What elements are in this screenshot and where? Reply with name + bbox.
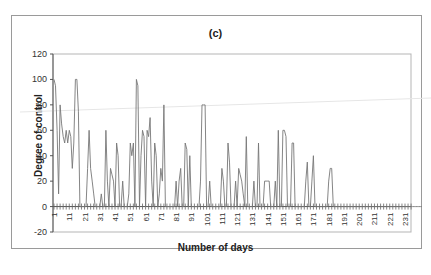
x-tick-label: 211 xyxy=(370,212,379,225)
plot-area: -200204060801001201112131415161718191101… xyxy=(0,0,431,275)
x-tick-label: 71 xyxy=(157,212,166,221)
x-tick-label: 181 xyxy=(325,212,334,226)
x-tick-label: 141 xyxy=(264,212,273,226)
x-tick-label: 111 xyxy=(218,212,227,225)
x-tick-label: 21 xyxy=(81,212,90,221)
x-tick-label: 201 xyxy=(355,212,364,226)
x-tick-label: 1 xyxy=(50,212,59,217)
x-tick-label: 31 xyxy=(96,212,105,221)
y-tick-label: 100 xyxy=(32,74,47,84)
x-tick-label: 171 xyxy=(309,212,318,226)
y-tick-label: 20 xyxy=(37,176,47,186)
y-tick-label: 0 xyxy=(42,202,47,212)
x-tick-label: 101 xyxy=(203,212,212,226)
x-tick-label: 51 xyxy=(126,212,135,221)
x-tick-label: 11 xyxy=(65,212,74,221)
y-tick-label: 40 xyxy=(37,151,47,161)
x-tick-label: 121 xyxy=(233,212,242,226)
x-tick-label: 131 xyxy=(248,212,257,226)
x-tick-label: 161 xyxy=(294,212,303,226)
data-series-line xyxy=(54,79,422,206)
y-tick-label: 60 xyxy=(37,125,47,135)
y-tick-label: -20 xyxy=(34,227,47,237)
x-tick-label: 41 xyxy=(111,212,120,221)
x-tick-label: 231 xyxy=(401,212,410,226)
x-tick-label: 61 xyxy=(142,212,151,221)
y-tick-label: 120 xyxy=(32,49,47,59)
x-tick-label: 151 xyxy=(279,212,288,226)
x-tick-label: 191 xyxy=(340,212,349,226)
x-tick-label: 91 xyxy=(187,212,196,221)
x-tick-label: 81 xyxy=(172,212,181,221)
y-tick-label: 80 xyxy=(37,100,47,110)
scan-artifact xyxy=(20,98,431,112)
x-tick-label: 221 xyxy=(386,212,395,226)
